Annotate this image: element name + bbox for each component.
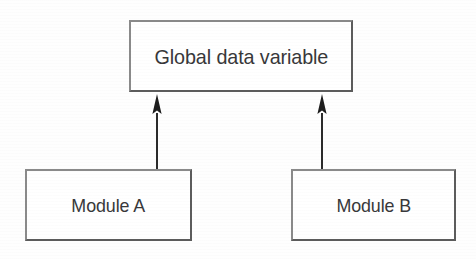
arrow-module-b-to-global: [315, 93, 329, 171]
diagram-canvas: Global data variable Module A Module B: [0, 0, 476, 259]
node-label-module-a: Module A: [72, 196, 146, 215]
arrow-head-icon: [152, 94, 161, 114]
node-label-module-b: Module B: [336, 196, 411, 215]
node-global-data-variable[interactable]: Global data variable: [129, 20, 353, 92]
node-module-b[interactable]: Module B: [291, 169, 456, 241]
arrow-module-a-to-global: [150, 93, 164, 171]
node-label-global-data-variable: Global data variable: [154, 46, 328, 67]
arrow-head-icon: [317, 94, 326, 114]
node-module-a[interactable]: Module A: [25, 169, 192, 241]
